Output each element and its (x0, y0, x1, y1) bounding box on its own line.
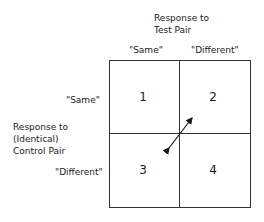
double-arrow-icon (0, 0, 264, 222)
